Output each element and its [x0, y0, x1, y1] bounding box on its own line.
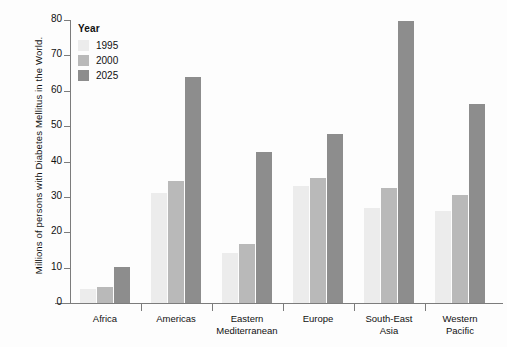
bar [114, 267, 130, 303]
y-axis-tick [64, 303, 71, 304]
category-separator-tick [141, 303, 142, 311]
category-separator-tick [212, 303, 213, 311]
y-axis-tick-label: 60 [34, 84, 62, 95]
bar-chart: Millions of persons with Diabetes Mellit… [0, 0, 507, 347]
x-axis-category-label: WesternPacific [405, 313, 507, 336]
bar [256, 152, 272, 303]
bar [151, 193, 167, 303]
y-axis-tick-label: 50 [34, 119, 62, 130]
bar [452, 195, 468, 303]
bar [364, 208, 380, 304]
y-axis-tick-label: 0 [34, 296, 62, 307]
bar [381, 188, 397, 303]
category-separator-tick [425, 303, 426, 311]
x-axis-line [55, 303, 503, 304]
bar [293, 186, 309, 303]
bar [310, 178, 326, 303]
y-axis-tick-label: 30 [34, 190, 62, 201]
y-axis-tick-label: 80 [34, 13, 62, 24]
bar [239, 244, 255, 303]
bar [185, 77, 201, 303]
y-axis-tick-label: 40 [34, 155, 62, 166]
y-axis-tick-label: 20 [34, 225, 62, 236]
bar [327, 134, 343, 303]
bar [80, 289, 96, 303]
y-axis-tick-label: 10 [34, 261, 62, 272]
bar [435, 211, 451, 303]
y-axis-tick-label: 70 [34, 48, 62, 59]
category-separator-tick [354, 303, 355, 311]
bar [97, 287, 113, 303]
bar [469, 104, 485, 303]
category-separator-tick [283, 303, 284, 311]
bar [168, 181, 184, 303]
plot-area [70, 20, 500, 303]
bar [222, 253, 238, 303]
bar [398, 21, 414, 303]
